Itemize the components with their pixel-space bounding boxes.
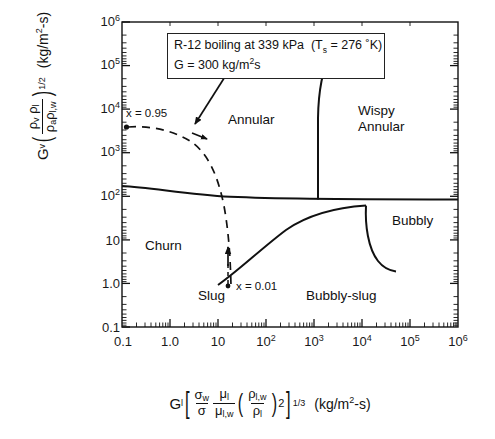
quality-locus-dashed	[128, 127, 231, 286]
y-frac-denominator: ρaρl,w	[42, 99, 58, 134]
wispy-annular-line2: Annular	[358, 119, 405, 135]
x-frac-sigma-num: σw	[192, 388, 211, 403]
x-paren-open: (	[238, 392, 243, 414]
y-axis-G: G	[34, 148, 51, 160]
x-frac-mu-num: μl	[217, 387, 231, 402]
x-tick-label-1e2: 102	[252, 333, 280, 349]
x-axis-ticks	[137, 319, 457, 327]
wispy-annular-line1: Wispy	[358, 103, 405, 119]
flow-regime-map-figure: 106 105 104 103 102 10 1.0 0.1 0.1 1.0 1…	[0, 0, 495, 439]
x-tick-label-1: 1.0	[157, 333, 183, 349]
x001-dot	[226, 284, 231, 289]
region-label-bubbly-slug: Bubbly-slug	[306, 288, 377, 304]
y-axis-ticks	[122, 22, 130, 327]
annotation-line-1: R-12 boiling at 339 kPa (Ts = 276 ˚K)	[174, 37, 378, 56]
y-axis-title: Gv ( ρv ρl ρaρl,w )1/2 (kg/m2-s)	[28, 0, 56, 206]
boundary-slug-bubblyslug	[218, 206, 366, 285]
caption-leader-arrow	[195, 72, 228, 124]
x-tick-label-1e5: 105	[396, 333, 424, 349]
x-axis-G-sub: l	[181, 398, 183, 408]
x-rho-power: 2	[278, 397, 284, 409]
region-label-slug: Slug	[198, 288, 225, 304]
region-label-annular: Annular	[228, 112, 275, 128]
annotation-line-2: G = 300 kg/m2s	[174, 56, 378, 74]
x-tick-label-1e4: 104	[348, 333, 376, 349]
y-axis-power: 1/2	[37, 77, 47, 90]
x-tick-label-1e6: 106	[444, 333, 472, 349]
x-frac-rho: ρl,w ρl	[246, 387, 268, 419]
x-frac-mu: μl μl,w	[213, 387, 236, 419]
x-axis-title: Gl [ σw σ μl μl,w ( ρl,w ρl )2 ]1/3 (kg/…	[60, 379, 480, 427]
x-bracket-close: ]	[286, 391, 291, 415]
y-axis-G-sub: v	[37, 144, 47, 149]
y-tick-label-1e6: 106	[80, 13, 120, 29]
x-paren-close: )	[271, 392, 276, 414]
region-label-wispy-annular: Wispy Annular	[358, 103, 405, 134]
quality-label-x095: x = 0.95	[126, 107, 167, 119]
x-tick-label-1e3: 103	[300, 333, 328, 349]
quality-label-x001: x = 0.01	[236, 280, 277, 292]
region-label-churn: Churn	[145, 238, 182, 254]
x-axis-power: 1/3	[293, 398, 306, 408]
x-frac-sigma: σw σ	[192, 388, 211, 418]
y-tick-label-1e4: 104	[80, 100, 120, 116]
x-frac-sigma-den: σ	[196, 403, 208, 418]
y-axis-unit: (kg/m2-s)	[34, 12, 51, 68]
y-tick-label-10: 10	[80, 232, 120, 248]
x-axis-G: G	[169, 395, 181, 412]
y-paren-open: (	[31, 137, 53, 142]
x-frac-rho-den: ρl	[251, 403, 264, 419]
boundary-annular-churn	[122, 186, 458, 199]
y-tick-label-1e3: 103	[80, 143, 120, 159]
x-frac-rho-num: ρl,w	[246, 387, 268, 402]
quality-locus-start-dot	[124, 124, 129, 129]
y-paren-close: )	[31, 91, 53, 96]
x-tick-label-0-1: 0.1	[110, 333, 136, 349]
region-label-bubbly: Bubbly	[392, 213, 433, 229]
x-bracket-open: [	[185, 391, 190, 415]
y-tick-label-1e5: 105	[80, 56, 120, 72]
annotation-box: R-12 boiling at 339 kPa (Ts = 276 ˚K) G …	[167, 33, 385, 79]
y-tick-label-1: 1.0	[80, 275, 120, 291]
x-tick-label-10: 10	[205, 333, 231, 349]
x-axis-unit: (kg/m2-s)	[314, 395, 370, 412]
x-frac-mu-den: μl,w	[213, 403, 236, 419]
y-frac-numerator: ρv ρl	[26, 102, 41, 131]
y-axis-fraction: ρv ρl ρaρl,w	[26, 99, 58, 134]
y-axis-right-ticks	[450, 35, 458, 325]
locus-direction-arrow	[192, 133, 207, 139]
y-tick-label-1e2: 102	[80, 187, 120, 203]
